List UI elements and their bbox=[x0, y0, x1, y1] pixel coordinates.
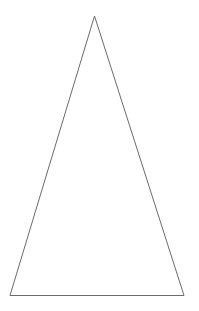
triangle-figure bbox=[0, 0, 199, 311]
diagram-canvas bbox=[0, 0, 199, 311]
triangle-outline bbox=[10, 16, 184, 296]
